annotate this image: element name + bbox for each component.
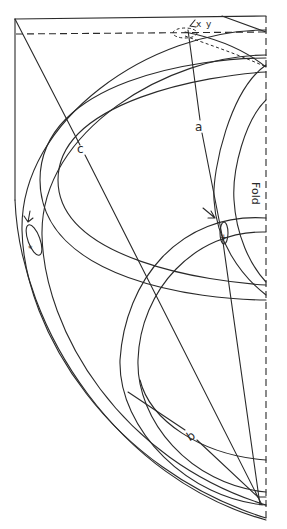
mark-y: y	[206, 19, 212, 29]
middle-mark-plus: +	[220, 232, 228, 242]
arrow-left-mark-icon	[24, 211, 33, 222]
fold-label: Fold	[249, 182, 262, 205]
lower-ring-arc	[140, 380, 266, 460]
top-dotted-curve	[185, 36, 266, 67]
pattern-diagram: c a b Fold x y * +	[0, 0, 287, 529]
lower-ring-outer	[120, 218, 266, 505]
diagram-svg: c a b Fold x y * +	[0, 0, 287, 529]
fold-arc-outer	[214, 65, 266, 295]
line-a-middle	[202, 133, 222, 235]
label-b: b	[184, 428, 198, 444]
mark-x: x	[196, 19, 202, 29]
line-b-lower	[197, 440, 258, 497]
line-c-upper	[15, 19, 80, 145]
top-circle-outer	[40, 58, 266, 300]
top-corner-line	[222, 16, 266, 32]
arrow-middle-mark-icon	[203, 208, 215, 218]
outer-hem-curve	[15, 200, 266, 520]
label-c: c	[77, 142, 84, 156]
large-ring-inner	[42, 55, 266, 505]
left-mark-asterisk: *	[28, 244, 33, 254]
lower-ring-inner	[138, 232, 266, 492]
line-a-upper	[188, 30, 200, 120]
label-a: a	[195, 120, 202, 134]
